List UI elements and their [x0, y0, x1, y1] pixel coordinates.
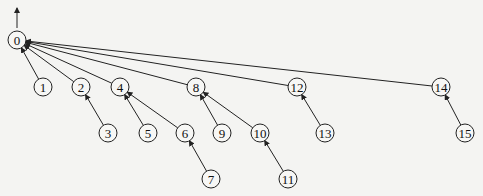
edge-1-to-0 [21, 48, 38, 79]
edge-11-to-10 [265, 141, 284, 172]
edge-10-to-8 [203, 92, 252, 127]
nodes-layer: 0124812143569101315711 [8, 31, 474, 188]
node-label: 5 [145, 126, 152, 141]
tree-node-13: 13 [316, 124, 334, 142]
edge-6-to-4 [127, 92, 177, 128]
node-label: 9 [219, 126, 226, 141]
edge-3-to-2 [86, 95, 104, 125]
tree-node-1: 1 [34, 78, 52, 96]
tree-node-10: 10 [251, 124, 269, 142]
node-label: 11 [282, 172, 295, 187]
tree-node-7: 7 [202, 170, 220, 188]
node-label: 8 [193, 80, 200, 95]
node-label: 15 [459, 126, 472, 141]
node-label: 14 [435, 80, 449, 95]
tree-node-8: 8 [187, 78, 205, 96]
tree-node-3: 3 [99, 124, 117, 142]
tree-node-11: 11 [279, 170, 297, 188]
edge-9-to-8 [200, 95, 217, 125]
edge-7-to-6 [189, 141, 206, 171]
edge-2-to-0 [24, 45, 73, 81]
tree-node-4: 4 [111, 78, 129, 96]
edge-5-to-4 [125, 95, 144, 126]
edge-14-to-0 [26, 41, 432, 86]
tree-diagram: 0124812143569101315711 [0, 0, 483, 196]
edge-8-to-0 [26, 42, 188, 84]
tree-node-5: 5 [139, 124, 157, 142]
node-label: 10 [254, 126, 267, 141]
node-label: 6 [182, 126, 189, 141]
edge-12-to-0 [26, 41, 288, 85]
tree-node-0: 0 [8, 31, 26, 49]
tree-node-6: 6 [176, 124, 194, 142]
edge-15-to-14 [445, 95, 461, 125]
edge-13-to-12 [302, 95, 321, 126]
tree-node-9: 9 [213, 124, 231, 142]
node-label: 13 [319, 126, 332, 141]
node-label: 0 [14, 33, 21, 48]
tree-node-14: 14 [432, 78, 450, 96]
tree-node-12: 12 [288, 78, 306, 96]
node-label: 4 [117, 80, 124, 95]
tree-node-15: 15 [456, 124, 474, 142]
node-label: 2 [78, 80, 85, 95]
node-label: 7 [208, 172, 215, 187]
node-label: 3 [105, 126, 112, 141]
node-label: 1 [40, 80, 47, 95]
node-label: 12 [291, 80, 304, 95]
tree-node-2: 2 [72, 78, 90, 96]
